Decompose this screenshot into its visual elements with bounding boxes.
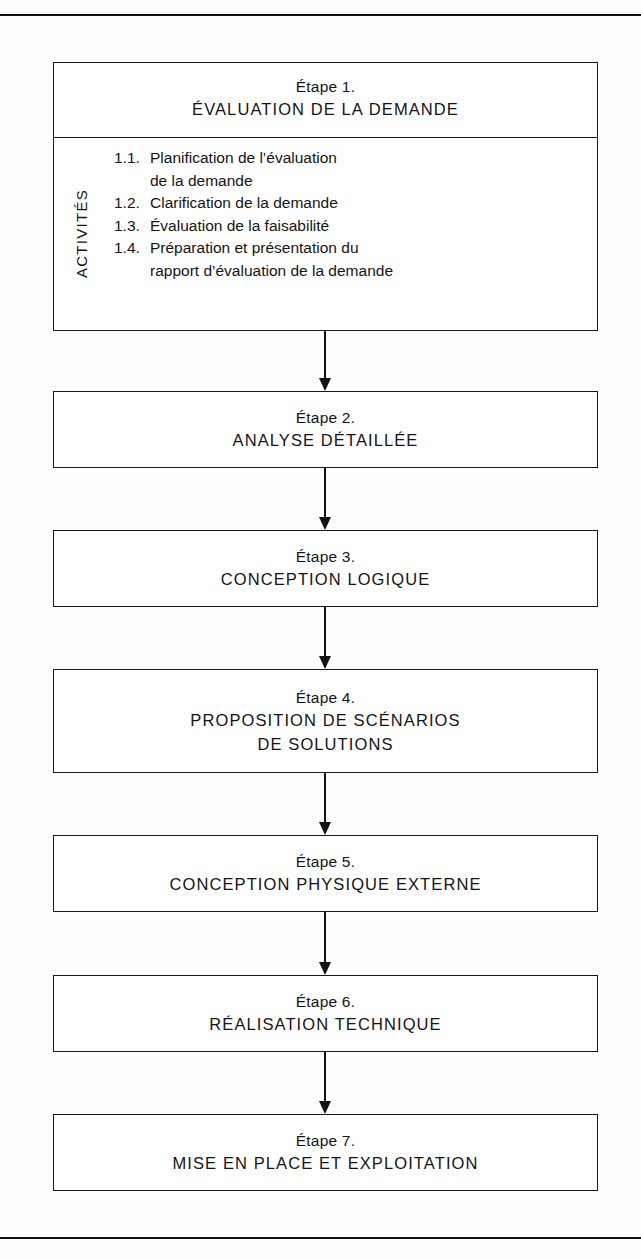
step-box-5: Étape 5. CONCEPTION PHYSIQUE EXTERNE	[53, 835, 598, 912]
step-box-1: Étape 1. ÉVALUATION DE LA DEMANDE ACTIVI…	[53, 62, 598, 331]
step-7-name: MISE EN PLACE ET EXPLOITATION	[172, 1151, 478, 1175]
activity-text: Clarification de la demande	[150, 192, 591, 215]
activities-vertical-label: ACTIVITÉS	[54, 138, 110, 328]
step-6-number: Étape 6.	[296, 991, 355, 1012]
step-1-number: Étape 1.	[54, 76, 597, 97]
step-2-name: ANALYSE DÉTAILLÉE	[233, 428, 419, 452]
activity-list: 1.1. Planification de l’évaluation de la…	[114, 147, 591, 282]
activities-label-text: ACTIVITÉS	[74, 188, 91, 277]
step-4-number: Étape 4.	[296, 687, 355, 708]
activity-line-1: Évaluation de la faisabilité	[150, 217, 329, 234]
arrow-step5-to-step6	[319, 912, 331, 975]
activity-text: Évaluation de la faisabilité	[150, 215, 591, 238]
step-6-name: RÉALISATION TECHNIQUE	[209, 1012, 441, 1036]
step-4-name: PROPOSITION DE SCÉNARIOS	[190, 708, 460, 732]
step-1-header: Étape 1. ÉVALUATION DE LA DEMANDE	[54, 63, 597, 138]
step-1-name: ÉVALUATION DE LA DEMANDE	[54, 97, 597, 121]
step-4-name-line2: DE SOLUTIONS	[257, 732, 393, 756]
activity-line-1: Planification de l’évaluation	[150, 149, 337, 166]
activity-text: Planification de l’évaluation de la dema…	[150, 147, 591, 192]
step-3-number: Étape 3.	[296, 546, 355, 567]
step-2-number: Étape 2.	[296, 407, 355, 428]
step-5-name: CONCEPTION PHYSIQUE EXTERNE	[169, 872, 481, 896]
step-7-number: Étape 7.	[296, 1130, 355, 1151]
activity-line-2: rapport d’évaluation de la demande	[150, 260, 591, 283]
step-1-activities-section: ACTIVITÉS 1.1. Planification de l’évalua…	[54, 138, 597, 328]
step-box-7: Étape 7. MISE EN PLACE ET EXPLOITATION	[53, 1114, 598, 1191]
activity-line-2: de la demande	[150, 170, 591, 193]
activity-number: 1.3.	[114, 215, 150, 238]
activity-item: 1.4. Préparation et présentation du rapp…	[114, 237, 591, 282]
step-box-6: Étape 6. RÉALISATION TECHNIQUE	[53, 975, 598, 1052]
step-box-2: Étape 2. ANALYSE DÉTAILLÉE	[53, 391, 598, 468]
activity-item: 1.1. Planification de l’évaluation de la…	[114, 147, 591, 192]
activity-item: 1.2. Clarification de la demande	[114, 192, 591, 215]
activity-line-1: Préparation et présentation du	[150, 239, 359, 256]
arrow-step6-to-step7	[319, 1052, 331, 1114]
arrow-step4-to-step5	[319, 773, 331, 835]
activity-text: Préparation et présentation du rapport d…	[150, 237, 591, 282]
activity-number: 1.1.	[114, 147, 150, 170]
page-top-rule	[0, 14, 641, 16]
activity-line-1: Clarification de la demande	[150, 194, 338, 211]
activity-number: 1.4.	[114, 237, 150, 260]
arrow-step1-to-step2	[319, 331, 331, 391]
page-bottom-rule	[0, 1237, 641, 1239]
activity-number: 1.2.	[114, 192, 150, 215]
activity-item: 1.3. Évaluation de la faisabilité	[114, 215, 591, 238]
step-5-number: Étape 5.	[296, 851, 355, 872]
step-3-name: CONCEPTION LOGIQUE	[221, 567, 431, 591]
flowchart-page: Étape 1. ÉVALUATION DE LA DEMANDE ACTIVI…	[0, 0, 641, 1259]
arrow-step2-to-step3	[319, 468, 331, 530]
step-box-3: Étape 3. CONCEPTION LOGIQUE	[53, 530, 598, 607]
arrow-step3-to-step4	[319, 607, 331, 669]
step-box-4: Étape 4. PROPOSITION DE SCÉNARIOS DE SOL…	[53, 669, 598, 773]
